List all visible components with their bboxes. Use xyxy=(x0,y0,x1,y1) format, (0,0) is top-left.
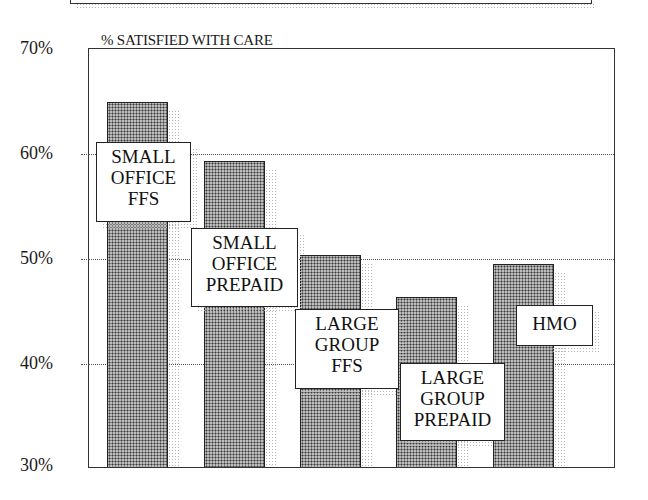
y-tick-70: 70% xyxy=(20,38,80,59)
chart-title: % SATISFIED WITH CARE xyxy=(101,32,273,49)
category-label-line: GROUP xyxy=(401,388,504,409)
category-label-line: GROUP xyxy=(296,334,398,355)
y-tick-60: 60% xyxy=(20,143,80,164)
y-tick-50: 50% xyxy=(20,248,80,269)
category-label-line: PREPAID xyxy=(401,409,504,430)
category-label-large-group-ffs: LARGEGROUPFFS xyxy=(295,309,399,389)
bar-shadow xyxy=(554,272,566,467)
bar-small-office-prepaid xyxy=(204,161,265,467)
tick-40 xyxy=(81,364,89,365)
category-label-small-office-ffs: SMALLOFFICEFFS xyxy=(96,142,191,222)
category-label-line: OFFICE xyxy=(97,167,190,188)
plot-area: SMALLOFFICEFFSSMALLOFFICEPREPAIDLARGEGRO… xyxy=(88,48,615,468)
category-label-line: SMALL xyxy=(192,232,297,253)
top-box-shadow xyxy=(76,3,596,10)
category-label-hmo: HMO xyxy=(516,305,593,346)
category-label-line: PREPAID xyxy=(192,274,297,295)
category-label-line: HMO xyxy=(517,306,592,341)
bar-shadow xyxy=(265,169,277,467)
y-tick-30: 30% xyxy=(20,455,80,476)
category-label-large-group-prepaid: LARGEGROUPPREPAID xyxy=(400,363,505,441)
category-label-line: SMALL xyxy=(97,146,190,167)
category-label-line: LARGE xyxy=(296,313,398,334)
tick-60 xyxy=(81,154,89,155)
category-label-line: LARGE xyxy=(401,367,504,388)
category-label-line: FFS xyxy=(97,188,190,209)
category-label-line: OFFICE xyxy=(192,253,297,274)
category-label-line: FFS xyxy=(296,355,398,376)
category-label-small-office-prepaid: SMALLOFFICEPREPAID xyxy=(191,228,298,307)
y-tick-40: 40% xyxy=(20,353,80,374)
tick-50 xyxy=(81,259,89,260)
